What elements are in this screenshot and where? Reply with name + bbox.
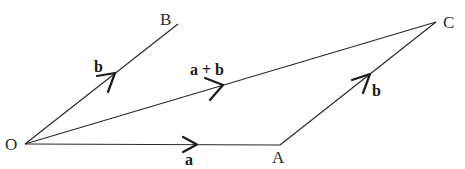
point-label-a: A [272,148,285,167]
point-label-c: C [443,13,454,32]
point-label-o: O [5,135,17,154]
vector-label-oc: a + b [190,61,224,78]
point-label-b: B [160,10,171,29]
arrow-icon-oc [205,78,223,100]
segment-ob [25,24,178,144]
vector-label-ac: b [372,82,381,99]
segment-oa [25,144,280,145]
segment-ac [280,22,436,145]
diagram-canvas: O A B C b a + b a b [0,0,465,169]
vector-label-ob: b [94,58,103,75]
vector-diagram: O A B C b a + b a b [0,0,465,169]
vector-label-oa: a [185,151,193,168]
